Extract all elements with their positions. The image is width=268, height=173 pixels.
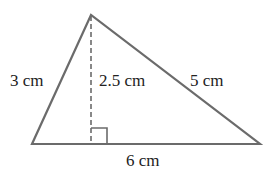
base-label: 6 cm: [126, 151, 160, 170]
left-side-label: 3 cm: [10, 71, 44, 90]
right-angle-marker: [91, 128, 107, 144]
triangle: [32, 15, 260, 144]
triangle-diagram: 3 cm 2.5 cm 5 cm 6 cm: [0, 0, 268, 173]
height-label: 2.5 cm: [99, 71, 145, 90]
right-side-label: 5 cm: [190, 71, 224, 90]
